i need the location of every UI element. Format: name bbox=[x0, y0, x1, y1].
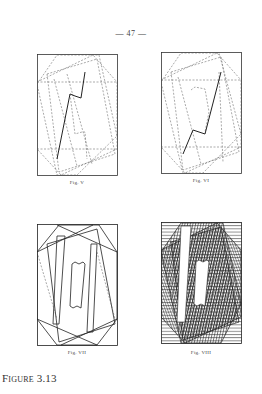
figure-v-drawing bbox=[37, 54, 118, 176]
figure-viii-label: Fig. VIII bbox=[161, 350, 241, 355]
figure-viii-drawing bbox=[161, 222, 242, 344]
figure-vi-label: Fig. VI bbox=[161, 178, 241, 183]
figure-vii-label: Fig. VII bbox=[37, 350, 117, 355]
figure-vi: Fig. VI bbox=[161, 52, 242, 174]
page-number: — 47 — bbox=[0, 29, 262, 38]
figure-v-label: Fig. V bbox=[37, 180, 117, 185]
figure-vii: Fig. VII bbox=[37, 224, 118, 346]
figure-caption: Figure 3.13 bbox=[2, 372, 57, 384]
figure-v: Fig. V bbox=[37, 54, 118, 176]
figure-viii: Fig. VIII bbox=[161, 222, 242, 344]
figure-vii-drawing bbox=[37, 224, 118, 346]
figure-vi-drawing bbox=[161, 52, 242, 174]
